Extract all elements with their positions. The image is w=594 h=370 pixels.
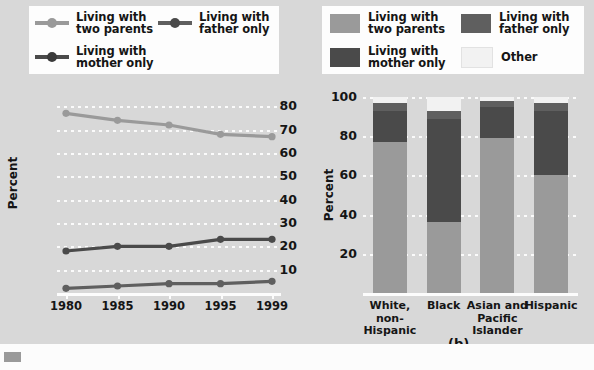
data-point-marker bbox=[217, 236, 224, 243]
y-axis-tick-label: 10 bbox=[251, 262, 297, 277]
legend-item-label: Other bbox=[501, 51, 537, 64]
stacked-bar bbox=[373, 97, 407, 293]
bar-segment bbox=[427, 111, 461, 119]
data-point-marker bbox=[217, 280, 224, 287]
data-point-marker bbox=[268, 278, 275, 285]
line-marker-icon bbox=[158, 21, 192, 25]
data-point-marker bbox=[165, 243, 172, 250]
x-axis-tick bbox=[169, 293, 171, 299]
y-axis-tick-label: 40 bbox=[251, 192, 297, 207]
legend-item-mother-only: Living with mother only bbox=[322, 40, 453, 74]
legend-label-line2: father only bbox=[199, 22, 269, 36]
y-axis-tick-label: 70 bbox=[251, 122, 297, 137]
legend-item-other: Other bbox=[453, 40, 584, 74]
bar-segment bbox=[534, 111, 568, 176]
bottom-white-strip bbox=[0, 344, 594, 370]
swatch-icon bbox=[330, 48, 360, 67]
legend-item-father-only: Living with father only bbox=[154, 6, 279, 40]
data-point-marker bbox=[217, 131, 224, 138]
y-axis-tick-label: 80 bbox=[303, 128, 357, 143]
swatch-icon bbox=[330, 14, 360, 33]
plot-area-a bbox=[57, 97, 281, 293]
x-axis-label-line: non-Hispanic bbox=[363, 312, 416, 338]
x-axis-label-line: Hispanic bbox=[525, 299, 578, 312]
data-point-marker bbox=[62, 285, 69, 292]
y-axis-tick-label: 20 bbox=[303, 246, 357, 261]
data-point-marker bbox=[165, 280, 172, 287]
swatch-icon bbox=[461, 47, 493, 68]
legend-item-two-parents: Living with two parents bbox=[322, 6, 453, 40]
corner-artifact bbox=[4, 352, 21, 362]
legend-label-line2: mother only bbox=[368, 56, 445, 70]
line-marker-icon bbox=[35, 21, 69, 25]
chart-panel-a: Percent (a) 1020304050607080198019851990… bbox=[0, 78, 297, 370]
swatch-icon bbox=[461, 14, 491, 33]
x-axis-label-line: Pacific bbox=[477, 312, 517, 325]
legend-item-label: Living with two parents bbox=[76, 11, 153, 36]
y-axis-tick-label: 60 bbox=[251, 145, 297, 160]
figure-canvas: Living with two parents Living with fath… bbox=[0, 0, 594, 370]
bar-segment bbox=[480, 107, 514, 138]
bar-segment bbox=[373, 111, 407, 142]
legend-item-label: Living with two parents bbox=[368, 11, 445, 36]
legend-item-label: Living with father only bbox=[199, 11, 269, 36]
line-marker-icon bbox=[35, 55, 69, 59]
bar-segment bbox=[373, 103, 407, 111]
x-axis-tick bbox=[221, 293, 223, 299]
y-axis-tick-label: 80 bbox=[251, 98, 297, 113]
data-point-marker bbox=[62, 247, 69, 254]
y-axis-title-b: Percent bbox=[322, 160, 336, 230]
x-axis-tick bbox=[118, 293, 120, 299]
line-series-group bbox=[57, 97, 281, 293]
x-axis-label-line: Black bbox=[427, 299, 460, 312]
x-axis-label-line: Islander bbox=[472, 324, 522, 337]
y-axis-title-a: Percent bbox=[6, 148, 20, 218]
legend-panel-b: Living with two parents Living with fath… bbox=[322, 6, 584, 74]
x-axis-line-b bbox=[363, 293, 578, 296]
bar-segment bbox=[427, 222, 461, 293]
legend-label-line2: father only bbox=[499, 22, 569, 36]
legend-item-label: Living with mother only bbox=[368, 45, 445, 70]
data-point-marker bbox=[114, 282, 121, 289]
x-axis-category-label: Hispanic bbox=[518, 300, 584, 313]
y-axis-tick-label: 30 bbox=[251, 215, 297, 230]
bar-segment bbox=[373, 142, 407, 293]
x-axis-tick-label: 1995 bbox=[198, 299, 244, 313]
bar-segment bbox=[427, 119, 461, 223]
data-point-marker bbox=[114, 117, 121, 124]
y-axis-tick-label: 20 bbox=[251, 238, 297, 253]
x-axis-tick-label: 1999 bbox=[249, 299, 295, 313]
chart-panel-b: 20406080100White,non-HispanicBlackAsian … bbox=[297, 78, 594, 370]
data-point-marker bbox=[62, 110, 69, 117]
legend-item-label: Living with mother only bbox=[76, 45, 153, 70]
bar-segment bbox=[534, 175, 568, 293]
legend-item-two-parents: Living with two parents bbox=[29, 6, 154, 40]
y-axis-tick-label: 50 bbox=[251, 168, 297, 183]
y-axis-tick-label: 100 bbox=[303, 89, 357, 104]
legend-panel-a: Living with two parents Living with fath… bbox=[29, 6, 279, 74]
x-axis-tick bbox=[272, 293, 274, 299]
plot-area-b bbox=[363, 97, 578, 293]
x-axis-tick-label: 1985 bbox=[95, 299, 141, 313]
x-axis-tick-label: 1990 bbox=[146, 299, 192, 313]
stacked-bar bbox=[427, 97, 461, 293]
stacked-bar bbox=[480, 97, 514, 293]
x-axis-tick-label: 1980 bbox=[43, 299, 89, 313]
legend-label-line1: Other bbox=[501, 50, 537, 64]
legend-label-line2: two parents bbox=[368, 22, 445, 36]
legend-label-line2: two parents bbox=[76, 22, 153, 36]
bar-segment bbox=[480, 138, 514, 293]
x-axis-label-line: White, bbox=[370, 299, 411, 312]
data-point-marker bbox=[165, 121, 172, 128]
legend-label-line2: mother only bbox=[76, 56, 153, 70]
data-point-marker bbox=[114, 243, 121, 250]
legend-item-label: Living with father only bbox=[499, 11, 569, 36]
legend-item-mother-only: Living with mother only bbox=[29, 40, 154, 74]
stacked-bar bbox=[534, 97, 568, 293]
bar-segment bbox=[427, 97, 461, 111]
x-axis-tick bbox=[66, 293, 68, 299]
legend-item-father-only: Living with father only bbox=[453, 6, 584, 40]
bar-segment bbox=[534, 103, 568, 111]
